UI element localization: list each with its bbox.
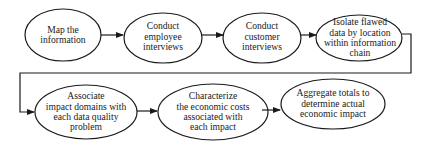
node-n4: Isolate flawed data by location within i… (318, 14, 402, 62)
node-n3-line-3: interviews (242, 42, 282, 52)
node-n6-line-4: each impact (177, 122, 250, 132)
node-n2: Conduct employee interviews (126, 12, 200, 62)
node-n6: Characterize the economic costs associat… (160, 86, 266, 138)
node-n1: Map the information (28, 10, 98, 60)
node-n7-line-3: economic impact (297, 109, 370, 119)
node-n3: Conduct customer interviews (225, 12, 299, 62)
node-n4-line-4: chain (324, 48, 396, 58)
node-n1-line-2: information (40, 35, 85, 45)
node-n7: Aggregate totals to determine actual eco… (283, 80, 383, 128)
node-n2-line-3: interviews (143, 42, 183, 52)
node-n5-line-4: problem (46, 122, 126, 132)
node-n5: Associate impact domains with each data … (36, 86, 136, 138)
